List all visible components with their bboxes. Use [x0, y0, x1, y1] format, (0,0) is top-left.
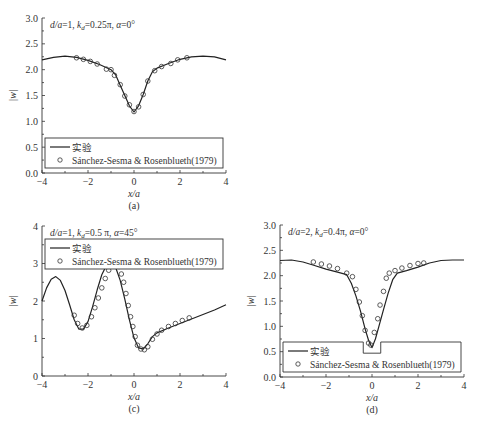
- parameter-annotation: d/a=2, kd=0.4π, α=0°: [288, 227, 369, 239]
- y-axis-label: |w|: [7, 295, 18, 307]
- x-tick-label: 4: [462, 380, 467, 391]
- x-axis-label: x/a: [127, 391, 140, 402]
- reference-markers: [72, 262, 192, 352]
- x-tick-label: 0: [132, 379, 137, 390]
- y-tick-label: 2.5: [264, 245, 277, 256]
- legend-label-reference: Sánchez-Sesma & Rosenblueth(1979): [72, 257, 217, 268]
- x-tick-label: 0: [370, 380, 375, 391]
- chart-panel-b: −4−20240.00.51.01.52.02.53.0x/a|w|(b)d/a…: [0, 0, 238, 212]
- reference-markers: [311, 260, 426, 348]
- x-tick-label: 2: [178, 379, 183, 390]
- y-tick-label: 3: [33, 258, 38, 269]
- y-tick-label: 1.0: [264, 321, 277, 332]
- x-tick-label: −4: [275, 380, 286, 391]
- legend: 实验Sánchez-Sesma & Rosenblueth(1979): [45, 239, 223, 269]
- chart-svg: −4−20240.00.51.01.52.02.53.0x/a|w|(d)d/a…: [238, 212, 476, 424]
- y-tick-label: 3.0: [264, 220, 277, 231]
- legend-label-experiment: 实验: [310, 346, 330, 357]
- y-tick-label: 0.5: [264, 346, 277, 357]
- x-tick-label: 4: [224, 379, 229, 390]
- chart-svg: −4−20240.00.51.01.52.02.53.0x/a|w|(b)d/a…: [0, 0, 238, 212]
- y-tick-label: 2: [33, 296, 38, 307]
- y-tick-label: 0.0: [264, 372, 277, 383]
- parameter-annotation: d/a=1, kd=0.5 π, α=45°: [50, 228, 138, 240]
- y-tick-label: 1: [33, 333, 38, 344]
- legend-label-experiment: 实验: [72, 243, 92, 254]
- experiment-curve: [280, 260, 464, 348]
- y-tick-label: 1.5: [264, 296, 277, 307]
- x-tick-label: 2: [416, 380, 421, 391]
- panel-caption: (c): [128, 403, 139, 415]
- chart-panel-c: −4−202401234x/a|w|(c)d/a=1, kd=0.5 π, α=…: [0, 212, 238, 424]
- panel-caption: (d): [366, 404, 378, 416]
- y-tick-label: 0: [33, 371, 38, 382]
- x-axis-label: x/a: [365, 392, 378, 403]
- y-tick-label: 2.0: [264, 270, 277, 281]
- x-tick-label: −2: [321, 380, 332, 391]
- figure: −4−20240.00.51.01.52.02.53.0x/a|w|(a)d/a…: [0, 0, 477, 425]
- x-tick-label: −2: [83, 379, 94, 390]
- x-tick-label: −4: [37, 379, 48, 390]
- legend-label-reference: Sánchez-Sesma & Rosenblueth(1979): [310, 360, 455, 371]
- y-axis-label: |w|: [245, 295, 256, 307]
- experiment-curve: [42, 264, 226, 350]
- chart-svg: −4−202401234x/a|w|(c)d/a=1, kd=0.5 π, α=…: [0, 212, 238, 424]
- chart-panel-d: −4−20240.00.51.01.52.02.53.0x/a|w|(d)d/a…: [238, 212, 476, 424]
- y-tick-label: 4: [33, 221, 38, 232]
